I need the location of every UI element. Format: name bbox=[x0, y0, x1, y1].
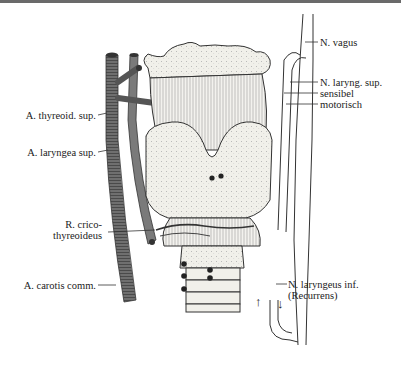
arrow-up-icon: ↑ bbox=[255, 296, 262, 307]
label-thyreoideus: thyreoideus bbox=[10, 230, 102, 241]
label-sensibel: sensibel bbox=[320, 88, 354, 99]
anatomy-figure: N. vagus N. laryng. sup. sensibel motori… bbox=[0, 0, 401, 372]
label-n-vagus: N. vagus bbox=[320, 37, 357, 48]
cricothyroid-muscle bbox=[163, 218, 260, 246]
cricoid-cartilage bbox=[180, 246, 244, 268]
label-a-laryngea-sup: A. laryngea sup. bbox=[10, 147, 96, 158]
hyoid-bone bbox=[144, 42, 270, 78]
trachea bbox=[181, 261, 240, 312]
label-n-laryngeus-inf: N. laryngeus inf. bbox=[288, 279, 359, 290]
label-recurrens: (Recurrens) bbox=[288, 290, 338, 301]
larynx-illustration bbox=[0, 0, 401, 372]
arrow-down-icon: ↓ bbox=[277, 298, 284, 309]
label-motorisch: motorisch bbox=[320, 99, 362, 110]
label-a-thyreoid-sup: A. thyreoid. sup. bbox=[10, 110, 96, 121]
label-r-crico: R. crico- bbox=[10, 219, 102, 230]
label-a-carotis-comm: A. carotis comm. bbox=[10, 280, 96, 291]
label-n-laryng-sup: N. laryng. sup. bbox=[320, 77, 382, 88]
